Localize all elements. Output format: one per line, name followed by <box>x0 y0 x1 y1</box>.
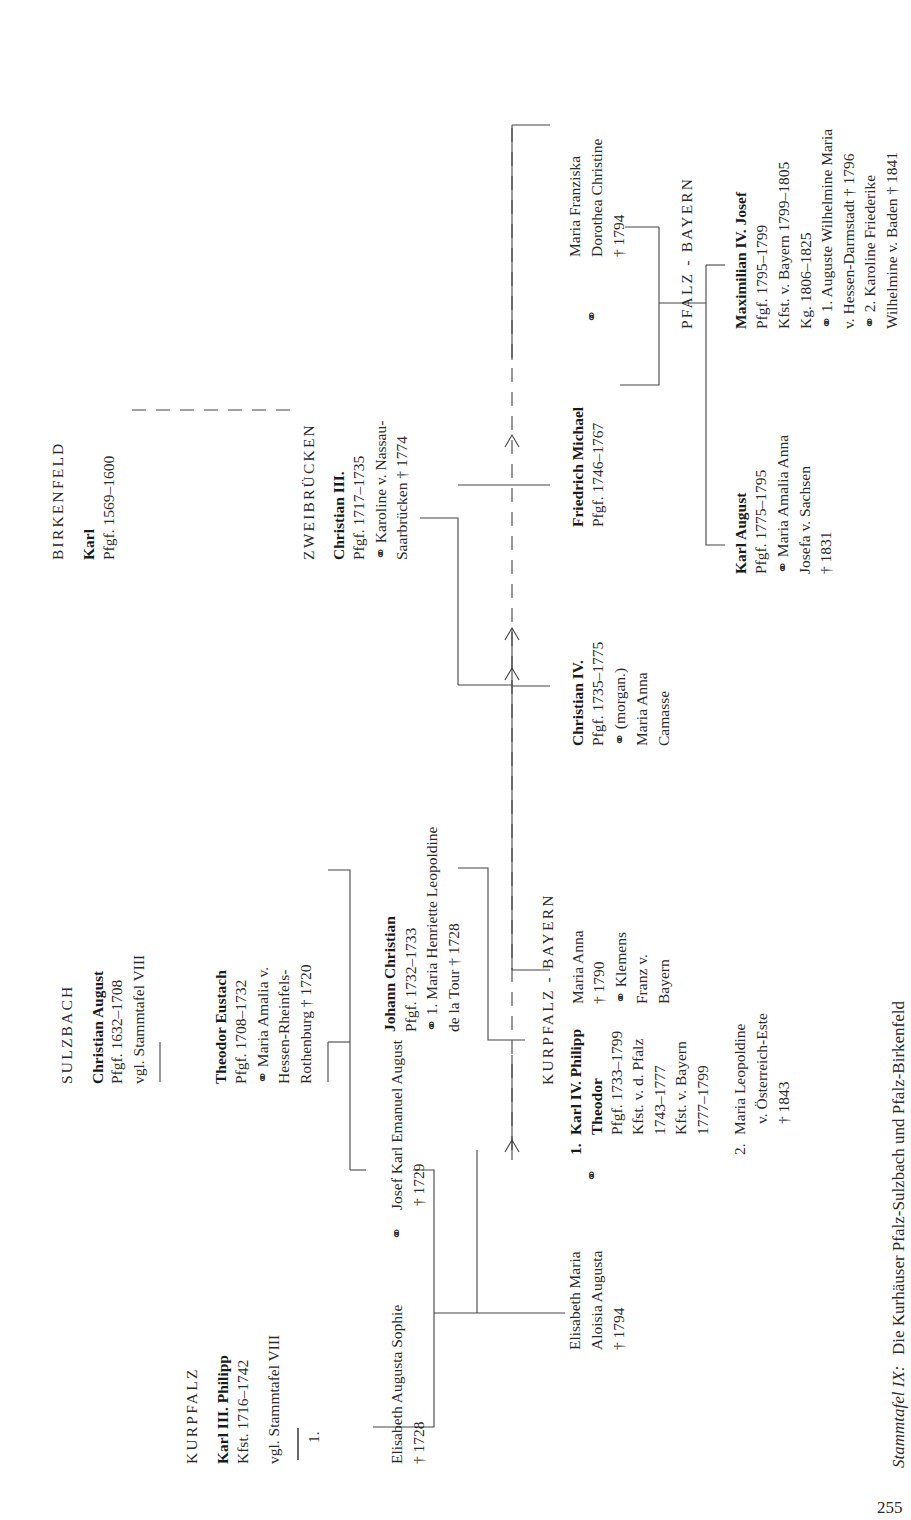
page-number: 255 <box>877 1498 903 1517</box>
genealogy-chart: KURPFALZ Karl III. Philipp Kfst. 1716–17… <box>0 0 911 1520</box>
connector-lines <box>132 120 725 1460</box>
person-detail: Pfgf. 1746–1767 <box>589 423 606 527</box>
person-detail: Pfgf. 1717–1735 <box>350 456 367 560</box>
person-detail: Franz v. <box>633 954 650 1004</box>
kurpfalz-block: KURPFALZ Karl III. Philipp Kfst. 1716–17… <box>0 0 282 1464</box>
person-name: Theodor Eustach <box>212 970 229 1084</box>
person-name: Friedrich Michael <box>569 406 586 527</box>
person-detail: ⚭ (morgan.) <box>611 668 629 746</box>
person-name: Christian IV. <box>569 660 586 746</box>
person-detail: Elisabeth Augusta Sophie <box>388 1305 405 1464</box>
marriage-icon: ⚭ <box>388 1227 405 1240</box>
person-detail: Pfgf. 1795–1799 <box>753 225 770 329</box>
person-detail: ⚭ 2. Karoline Friederike <box>861 175 878 329</box>
kurpfalz-bayern-block: KURPFALZ - BAYERN Elisabeth Maria Aloisi… <box>539 893 792 1350</box>
marriage-order: 1. <box>567 1143 584 1155</box>
sulzbach-block: SULZBACH Christian August Pfgf. 1632–170… <box>58 955 314 1084</box>
person-name: Karl IV. Philipp <box>567 1029 584 1135</box>
person-detail: ⚭ 1. Maria Henriette Leopoldine <box>423 826 440 1032</box>
person-detail: ⚭ Klemens <box>612 932 629 1004</box>
person-detail: Kfst. v. Bayern <box>672 1041 689 1135</box>
person-detail: vgl. Stammtafel VIII <box>265 1335 282 1464</box>
person-detail: 1777–1799 <box>694 1065 711 1135</box>
person-detail: Pfgf. 1733–1799 <box>608 1031 625 1135</box>
person-detail: Kfst. 1716–1742 <box>234 1360 251 1464</box>
person-detail: † 1843 <box>775 1081 792 1124</box>
house-title-kurpfalz: KURPFALZ <box>183 1367 200 1464</box>
person-detail: Maria Anna <box>569 930 586 1004</box>
person-detail: Maria Leopoldine <box>731 1023 748 1135</box>
person-detail: Hessen-Rheinfels- <box>275 970 292 1085</box>
person-detail: Pfgf. 1735–1775 <box>589 642 606 746</box>
person-detail: Pfgf. 1632–1708 <box>108 980 125 1084</box>
person-detail: Bayern <box>655 959 672 1004</box>
generation-2: 1. Elisabeth Augusta Sophie † 1728 ⚭ Jos… <box>305 826 462 1464</box>
caption-label: Stammtafel IX: <box>889 1366 908 1468</box>
marriage-order: 2. <box>731 1143 748 1155</box>
person-detail: de la Tour † 1728 <box>445 923 462 1032</box>
person-detail: ⚭ Maria Amalia Anna <box>774 435 791 574</box>
person-detail: Kg. 1806–1825 <box>797 232 814 329</box>
person-name: Maximilian IV. Josef <box>732 191 749 329</box>
house-title-zweibruecken: ZWEIBRÜCKEN <box>300 423 317 560</box>
person-detail: Kfst. v. d. Pfalz <box>629 1039 646 1135</box>
person-detail: Kfst. v. Bayern 1799–1805 <box>775 161 792 329</box>
person-detail: Elisabeth Maria <box>566 1251 583 1350</box>
zweibruecken-children: Christian IV. Pfgf. 1735–1775 ⚭ (morgan.… <box>566 139 672 746</box>
person-detail: Aloisia Augusta <box>588 1250 605 1350</box>
person-name: Johann Christian <box>381 916 398 1032</box>
person-detail: Josef Karl Emanuel August <box>388 1039 405 1210</box>
house-title-birkenfeld: BIRKENFELD <box>49 442 66 560</box>
person-detail: Dorothea Christine <box>588 139 605 257</box>
person-detail: 1743–1777 <box>651 1065 668 1135</box>
person-detail: ⚭ 1. Auguste Wilhelmine Maria <box>818 129 835 329</box>
page-footer: Stammtafel IX: Die Kurhäuser Pfalz-Sulzb… <box>877 1000 908 1517</box>
person-detail: ⚭ Karoline v. Nassau- <box>372 421 389 560</box>
person-detail: Camasse <box>655 691 672 746</box>
person-detail: Rothenburg † 1720 <box>297 964 314 1084</box>
person-name: Karl III. Philipp <box>214 1355 231 1464</box>
person-detail: Josefa v. Sachsen <box>796 466 813 574</box>
person-name: Christian III. <box>330 471 347 560</box>
pfalz-bayern-block: PFALZ - BAYERN Karl August Pfgf. 1775–17… <box>678 129 900 574</box>
person-detail: vgl. Stammtafel VIII <box>130 955 147 1084</box>
person-detail: † 1794 <box>610 214 627 257</box>
zweibruecken-block: ZWEIBRÜCKEN Christian III. Pfgf. 1717–17… <box>300 421 410 560</box>
house-title-pfalz-bayern: PFALZ - BAYERN <box>678 177 695 329</box>
person-detail: Maria Anna <box>633 672 650 746</box>
birkenfeld-block: BIRKENFELD Karl Pfgf. 1569–1600 <box>49 442 117 560</box>
person-detail: † 1794 <box>610 1307 627 1350</box>
person-detail: ⚭ Maria Amalia v. <box>254 967 271 1084</box>
person-name: Karl August <box>732 492 749 574</box>
person-detail: v. Österreich-Este <box>753 1013 770 1124</box>
marriage-icon: ⚭ <box>583 310 600 323</box>
marker-first-marriage: 1. <box>305 1431 322 1443</box>
person-detail: † 1728 <box>410 1421 427 1464</box>
person-detail: Pfgf. 1708–1732 <box>232 980 249 1084</box>
person-name: Christian August <box>89 970 106 1084</box>
person-detail: Pfgf. 1775–1795 <box>752 470 769 574</box>
marriage-icon: ⚭ <box>583 1169 600 1182</box>
person-detail: v. Hessen-Darmstadt † 1796 <box>840 153 857 329</box>
person-detail: Pfgf. 1732–1733 <box>402 928 419 1032</box>
house-title-sulzbach: SULZBACH <box>58 985 75 1084</box>
person-detail: Wilhelmine v. Baden † 1841 <box>883 152 900 329</box>
caption-title: Die Kurhäuser Pfalz-Sulzbach und Pfalz-B… <box>889 1000 908 1355</box>
person-detail: † 1831 <box>817 531 834 574</box>
house-title-kurpfalz-bayern: KURPFALZ - BAYERN <box>539 893 556 1085</box>
person-detail: † 1729 <box>410 1163 427 1206</box>
person-name: Karl <box>80 528 97 560</box>
person-detail: † 1790 <box>590 961 607 1004</box>
person-detail: Pfgf. 1569–1600 <box>100 456 117 560</box>
person-name: Theodor <box>588 1078 605 1135</box>
person-detail: Maria Franziska <box>566 156 583 257</box>
person-detail: Saarbrücken † 1774 <box>393 436 410 560</box>
